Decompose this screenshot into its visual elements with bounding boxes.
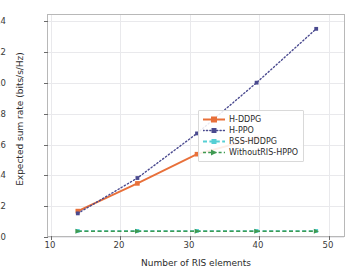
data-point <box>255 81 259 85</box>
y-axis-title: Expected sum rate (bits/s/Hz) <box>15 8 25 231</box>
legend-label-rss-hddpg: RSS-HDDPG <box>229 136 277 147</box>
legend-item-h-ddpg[interactable]: H-DDPG <box>203 114 298 125</box>
data-point <box>76 211 80 215</box>
legend-label-h-ppo: H-PPO <box>229 125 254 136</box>
legend: H-DDPG H-PPO RSS-HDDPG WithoutRIS-HPPO <box>198 110 304 162</box>
legend-swatch-withoutris-hppo <box>203 147 225 158</box>
data-point <box>314 27 318 31</box>
legend-swatch-h-ddpg <box>203 114 225 125</box>
figure-container: Expected sum rate (bits/s/Hz) Number of … <box>0 0 358 279</box>
y-tick-label-5: 1.0 <box>0 79 6 88</box>
legend-item-withoutris-hppo[interactable]: WithoutRIS-HPPO <box>203 147 298 158</box>
legend-item-h-ppo[interactable]: H-PPO <box>203 125 298 136</box>
legend-label-h-ddpg: H-DDPG <box>229 114 261 125</box>
y-tick-label-0: 0.0 <box>0 233 6 242</box>
data-point <box>136 176 140 180</box>
legend-item-rss-hddpg[interactable]: RSS-HDDPG <box>203 136 298 147</box>
y-tick-label-4: 0.8 <box>0 110 6 119</box>
x-tick-label-0: 10 <box>35 241 65 250</box>
x-axis-title: Number of RIS elements <box>47 258 345 268</box>
y-tick-label-3: 0.6 <box>0 141 6 150</box>
x-tick-label-3: 40 <box>243 241 273 250</box>
y-tick-label-1: 0.2 <box>0 202 6 211</box>
x-tick-label-2: 30 <box>174 241 204 250</box>
x-tick-label-4: 50 <box>313 241 343 250</box>
legend-label-withoutris-hppo: WithoutRIS-HPPO <box>229 147 298 158</box>
y-tick-label-7: 1.4 <box>0 17 6 26</box>
y-tick-label-2: 0.4 <box>0 171 6 180</box>
x-tick-label-1: 20 <box>104 241 134 250</box>
data-point <box>135 181 140 186</box>
legend-swatch-rss-hddpg <box>203 136 225 147</box>
legend-swatch-h-ppo <box>203 125 225 136</box>
y-tick-label-6: 1.2 <box>0 48 6 57</box>
